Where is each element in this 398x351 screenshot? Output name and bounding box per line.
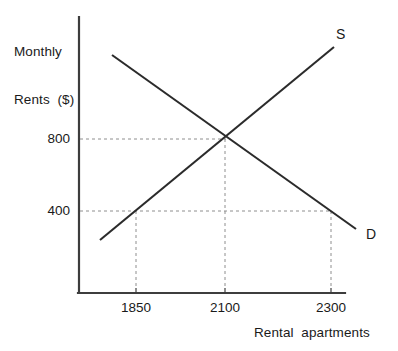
demand-curve-label: D [366, 226, 376, 243]
y-axis-title-line2: Rents ($) [14, 92, 74, 108]
supply-demand-chart: Monthly Rents ($) 800 400 1850 2100 2300… [0, 0, 398, 351]
y-tick-label-400: 400 [22, 203, 70, 219]
demand-curve [112, 55, 356, 229]
x-axis-title: Rental apartments [254, 325, 370, 341]
x-tick-label-2100: 2100 [195, 300, 255, 316]
supply-curve-label: S [336, 26, 345, 43]
x-tick-label-2300: 2300 [301, 300, 361, 316]
x-tick-label-1850: 1850 [106, 300, 166, 316]
y-axis-title: Monthly Rents ($) [14, 12, 74, 139]
y-axis-title-line1: Monthly [14, 44, 74, 60]
y-tick-label-800: 800 [22, 131, 70, 147]
